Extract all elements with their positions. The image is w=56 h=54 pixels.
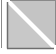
- vertical-divider: [1, 0, 2, 48]
- diagonal-split-button[interactable]: [6, 0, 56, 50]
- diagonal-split-icon: [6, 0, 56, 50]
